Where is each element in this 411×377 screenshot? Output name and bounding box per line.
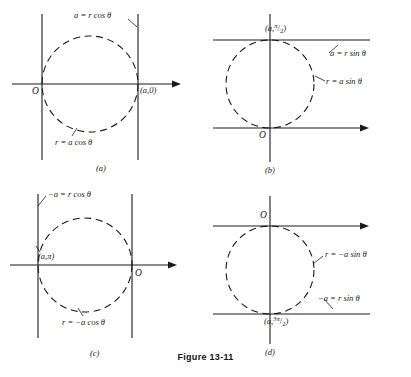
origin-label: O — [32, 86, 39, 96]
leader-curve-label — [315, 76, 325, 81]
origin-label: O — [135, 268, 142, 278]
point-label: (a,0) — [140, 86, 156, 95]
point-label: (a,π/2) — [265, 24, 286, 33]
origin-label: O — [260, 210, 267, 220]
curve-equation-label: r = a cos θ — [55, 138, 92, 147]
polar-axis-arrowhead — [360, 222, 369, 229]
leader-line-label — [128, 19, 137, 27]
figure-13-11: a = r cos θ r = a cos θ O (a,0) (a) — [0, 0, 411, 377]
point-label: (a,3π/2) — [264, 317, 288, 326]
line-equation-label: −a = r sin θ — [318, 294, 360, 303]
panel-a-diagram — [0, 0, 205, 185]
panel-d: O r = −a sin θ −a = r sin θ (a,3π/2) (d) — [205, 186, 410, 371]
polar-axis-arrowhead — [360, 124, 369, 131]
curve-equation-label: r = −a sin θ — [325, 250, 367, 259]
line-equation-label: a = r cos θ — [74, 11, 111, 20]
curve-equation-label: r = a sin θ — [326, 77, 362, 86]
panel-b-diagram — [205, 0, 410, 185]
panel-c: −a = r cos θ (a,π) O r = −a cos θ (c) — [0, 186, 205, 371]
panel-letter-b: (b) — [265, 165, 275, 175]
point-label: (a,π) — [38, 252, 54, 261]
panel-d-diagram — [205, 186, 410, 371]
line-equation-label: a = r sin θ — [330, 49, 366, 58]
panel-b: (a,π/2) a = r sin θ r = a sin θ O (b) — [205, 0, 410, 185]
leader-line-label — [38, 196, 46, 206]
panel-letter-a: (a) — [96, 163, 106, 173]
origin-label: O — [259, 130, 266, 140]
polar-axis-arrowhead — [172, 80, 181, 87]
panel-c-diagram — [0, 186, 205, 371]
figure-caption: Figure 13-11 — [0, 352, 411, 362]
polar-axis-arrowhead — [168, 261, 177, 268]
leader-curve-label — [313, 256, 323, 264]
panel-a: a = r cos θ r = a cos θ O (a,0) (a) — [0, 0, 205, 185]
curve-equation-label: r = −a cos θ — [62, 318, 105, 327]
line-equation-label: −a = r cos θ — [48, 190, 91, 199]
leader-curve-label — [72, 128, 77, 136]
